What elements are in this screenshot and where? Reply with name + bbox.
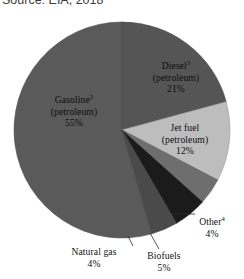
footnote-marker-other: 4 xyxy=(221,215,224,222)
pie-label-gasoline-line1: Gasoline2 xyxy=(32,94,116,106)
pie-label-natural-gas-value: 4% xyxy=(54,258,134,270)
source-caption-clipped: Source: EIA, 2018 xyxy=(0,0,244,7)
pie-label-natural-gas-line1: Natural gas xyxy=(54,246,134,258)
footnote-marker-gasoline: 2 xyxy=(90,93,93,100)
pie-label-biofuels: Biofuels 5% xyxy=(128,250,200,273)
pie-label-jet-fuel-line2: (petroleum) xyxy=(148,134,222,146)
pie-label-jet-fuel-value: 12% xyxy=(148,145,222,157)
footnote-marker-diesel: 3 xyxy=(187,59,190,66)
pie-label-jet-fuel: Jet fuel (petroleum) 12% xyxy=(148,122,222,157)
pie-label-jet-fuel-line1: Jet fuel xyxy=(148,122,222,134)
pie-label-diesel: Diesel3 (petroleum) 21% xyxy=(140,60,212,95)
pie-label-other-line1: Other4 xyxy=(186,216,238,228)
pie-label-diesel-line2: (petroleum) xyxy=(140,72,212,84)
pie-label-other: Other4 4% xyxy=(186,216,238,239)
pie-label-biofuels-line1: Biofuels xyxy=(128,250,200,262)
leader-line-biofuels xyxy=(150,233,159,249)
pie-label-other-value: 4% xyxy=(186,228,238,240)
pie-chart: Diesel3 (petroleum) 21% Gasoline2 (petro… xyxy=(0,0,244,279)
source-caption-text: Source: EIA, 2018 xyxy=(2,0,103,7)
pie-label-diesel-line1: Diesel3 xyxy=(140,60,212,72)
pie-label-gasoline: Gasoline2 (petroleum) 55% xyxy=(32,94,116,129)
pie-label-gasoline-value: 55% xyxy=(32,117,116,129)
pie-label-gasoline-line2: (petroleum) xyxy=(32,106,116,118)
pie-label-natural-gas: Natural gas 4% xyxy=(54,246,134,269)
pie-label-biofuels-value: 5% xyxy=(128,262,200,274)
pie-label-diesel-value: 21% xyxy=(140,83,212,95)
